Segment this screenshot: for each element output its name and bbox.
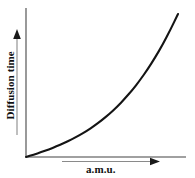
x-axis-label: a.m.u. bbox=[86, 164, 116, 175]
chart-plot-area bbox=[0, 0, 195, 178]
data-curve bbox=[26, 14, 178, 157]
diffusion-time-chart: Diffusion time a.m.u. bbox=[0, 0, 195, 178]
y-axis-label: Diffusion time bbox=[5, 64, 16, 120]
